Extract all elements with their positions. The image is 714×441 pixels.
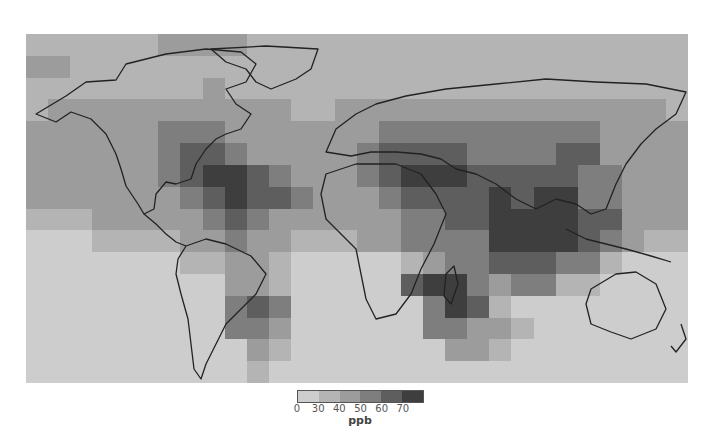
south-america-outline (176, 239, 266, 379)
southeast-asia-outline (566, 229, 671, 262)
colorbar-tick-label: 0 (294, 403, 300, 415)
coastlines (26, 34, 688, 383)
colorbar-bin (360, 391, 381, 402)
central-america-outline (144, 214, 186, 246)
colorbar-bin (340, 391, 361, 402)
madagascar-outline (444, 266, 458, 304)
greenland-outline (211, 46, 318, 89)
colorbar-unit-label: ppb (330, 414, 390, 427)
colorbar (297, 390, 424, 403)
colorbar-bin (402, 391, 423, 402)
africa-outline (321, 164, 446, 319)
colorbar-bin (319, 391, 340, 402)
australia-outline (586, 272, 666, 339)
north-america-outline (36, 49, 256, 214)
new-zealand-outline (671, 324, 686, 352)
colorbar-tick-label: 30 (312, 403, 325, 415)
colorbar-bin (381, 391, 402, 402)
eurasia-outline (326, 79, 686, 214)
colorbar-bin (298, 391, 319, 402)
ozone-map (26, 34, 688, 383)
colorbar-tick-label: 70 (396, 403, 409, 415)
